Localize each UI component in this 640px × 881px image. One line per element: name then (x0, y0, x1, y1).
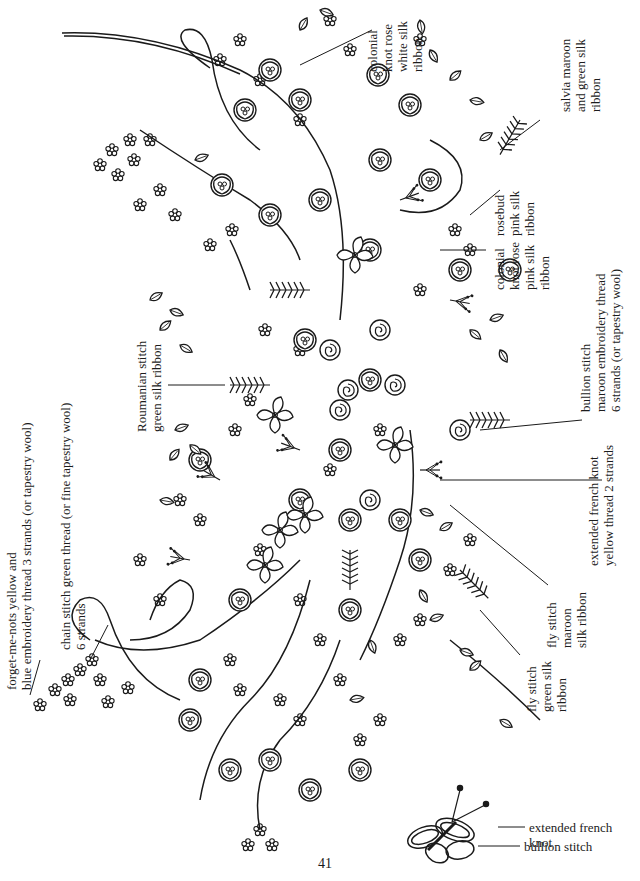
label-roumanian-stitch: Roumanian stitch green silk ribbon (134, 341, 164, 432)
label-bullion-stitch: bullion stitch maroon embroidery thread … (578, 269, 623, 412)
bullion-roses (320, 320, 470, 510)
label-extended-french-knot: extended french knot yellow thread 2 str… (586, 445, 616, 566)
label-colonial-knot-rose-white: colonial knot rose white silk ribbon (365, 21, 425, 72)
embroidery-pattern-illustration (0, 0, 640, 881)
leader-lines (30, 30, 602, 846)
label-chain-stitch: chain stitch green thread (or fine tapes… (58, 403, 88, 650)
label-salvia: salvia maroon and green silk ribbon (558, 39, 603, 112)
page-number: 41 (318, 856, 332, 872)
butterfly-illustration (405, 786, 489, 867)
legend-bullion-stitch: bullion stitch (524, 839, 592, 854)
label-forget-me-nots: forget-me-nots yellow and blue embroider… (4, 422, 34, 690)
label-fly-stitch-green: fly stitch green silk ribbon (524, 661, 569, 712)
label-fly-stitch-maroon: fly stitch maroon silk ribbon (544, 592, 589, 648)
label-colonial-knot-rose-pink: colonial knot rose pink silk ribbon (492, 242, 552, 290)
label-rosebud: rosebud pink silk ribbon (492, 191, 537, 236)
leaves (148, 7, 514, 730)
